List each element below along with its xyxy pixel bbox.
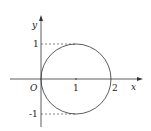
x-tick-1: 1: [73, 83, 79, 93]
y-axis-arrow-icon: [39, 15, 43, 21]
y-axis-label: y: [31, 20, 38, 30]
y-tick-1: 1: [33, 39, 39, 49]
x-tick-2: 2: [112, 83, 118, 93]
origin-label: O: [30, 83, 38, 93]
x-axis-arrow-icon: [137, 77, 143, 81]
coordinate-diagram: y x O 1 2 1 -1: [0, 0, 151, 131]
x-axis-label: x: [131, 82, 136, 92]
center-dot: [75, 78, 77, 80]
y-tick-minus-1: -1: [29, 109, 38, 119]
